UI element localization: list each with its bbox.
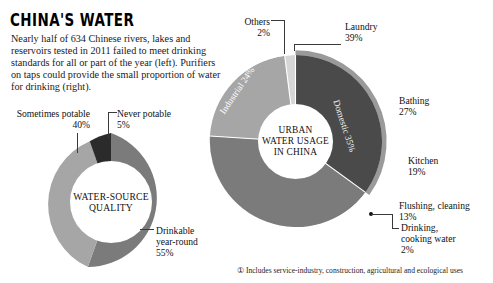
flushing-pct: 13%	[399, 211, 470, 222]
sometimes-potable-pct: 40%	[12, 119, 90, 130]
drinking-label-line2: cooking water	[401, 233, 456, 244]
flushing-label: Flushing, cleaning	[399, 200, 470, 211]
others-pct: 2%	[222, 27, 270, 38]
never-potable-label: Never potable	[117, 108, 171, 119]
callout-sometimes-potable: Sometimes potable 40%	[12, 108, 90, 130]
leader-line-laundry-v	[294, 44, 295, 51]
right-center-line3: IN CHINA	[274, 147, 318, 157]
bathing-pct: 27%	[399, 106, 429, 117]
never-potable-pct: 5%	[117, 119, 171, 130]
right-center-line2: WATER USAGE	[262, 136, 329, 146]
drinking-pct: 2%	[401, 244, 456, 255]
drinkable-label-line2: year-round	[156, 236, 198, 247]
leader-line-never-potable-h	[108, 112, 117, 113]
sometimes-potable-label: Sometimes potable	[17, 108, 90, 119]
bathing-label: Bathing	[399, 95, 429, 106]
drinking-label-line1: Drinking,	[401, 222, 438, 233]
page-title: CHINA'S WATER	[10, 10, 134, 30]
callout-bathing: Bathing 27%	[399, 95, 429, 117]
leader-line-sometimes-potable	[77, 133, 78, 153]
footnote: ① Includes service-industry, constructio…	[237, 266, 463, 275]
leader-line-drinking-v	[392, 214, 393, 228]
callout-drinking-cooking-water: Drinking, cooking water 2%	[401, 222, 456, 256]
laundry-pct: 39%	[345, 32, 378, 43]
right-donut-center: URBAN WATER USAGE IN CHINA	[258, 104, 333, 179]
leader-line-never-potable-v	[108, 112, 109, 138]
drinkable-pct: 55%	[156, 247, 198, 258]
leader-line-laundry-h	[294, 44, 341, 45]
intro-paragraph: Nearly half of 634 Chinese rivers, lakes…	[11, 33, 226, 93]
right-donut-center-label: URBAN WATER USAGE IN CHINA	[262, 125, 329, 159]
kitchen-label: Kitchen	[408, 155, 438, 166]
leader-line-others-v	[284, 20, 285, 54]
left-donut-center: WATER-SOURCE QUALITY	[70, 161, 152, 243]
leader-line-flushing-h	[371, 214, 393, 215]
right-center-line1: URBAN	[279, 125, 313, 135]
leader-line-drinking-h	[392, 228, 399, 229]
leader-line-drinkable	[140, 229, 154, 230]
kitchen-pct: 19%	[408, 166, 438, 177]
callout-drinkable-year-round: Drinkable year-round 55%	[156, 225, 198, 259]
left-donut-center-label: WATER-SOURCE QUALITY	[73, 191, 148, 214]
drinkable-label-line1: Drinkable	[156, 225, 194, 236]
laundry-label: Laundry	[345, 21, 378, 32]
callout-kitchen: Kitchen 19%	[408, 155, 438, 177]
left-center-line1: WATER-SOURCE	[73, 191, 148, 202]
others-label: Others	[244, 16, 270, 27]
leader-line-others-h	[271, 20, 285, 21]
callout-never-potable: Never potable 5%	[117, 108, 171, 130]
callout-others: Others 2%	[222, 16, 270, 38]
infographic-root: CHINA'S WATER Nearly half of 634 Chinese…	[0, 0, 493, 283]
callout-laundry: Laundry 39%	[345, 21, 378, 43]
callout-flushing-cleaning: Flushing, cleaning 13%	[399, 200, 470, 222]
left-center-line2: QUALITY	[89, 202, 133, 213]
